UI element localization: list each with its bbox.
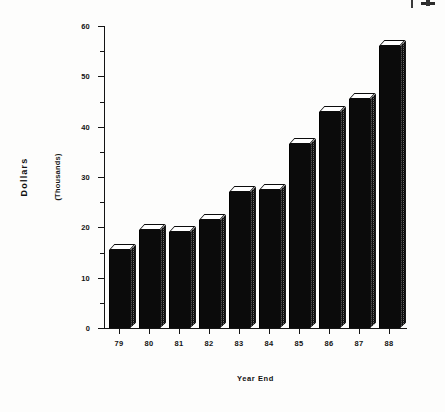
- x-tick-label: 86: [325, 339, 334, 348]
- bar-side-face: [250, 187, 256, 328]
- bar-front-face: [379, 46, 400, 328]
- x-tick: [209, 329, 210, 334]
- y-tick-major: 30: [98, 177, 104, 178]
- x-tick: [149, 329, 150, 334]
- bar-top-face: [319, 106, 345, 112]
- x-axis-title: Year End: [104, 374, 407, 383]
- bar-front-face: [199, 220, 220, 328]
- y-tick-minor: [100, 303, 104, 304]
- bar-top-face: [139, 224, 165, 230]
- x-tick-label: 85: [295, 339, 304, 348]
- x-tick: [329, 329, 330, 334]
- bar: [319, 112, 340, 328]
- x-tick-label: 79: [115, 339, 124, 348]
- bar-front-face: [139, 230, 160, 328]
- x-tick-label: 83: [235, 339, 244, 348]
- x-tick: [179, 329, 180, 334]
- plot-area: 0102030405060: [104, 26, 404, 328]
- bar-top-face: [259, 184, 285, 190]
- bar: [379, 46, 400, 328]
- y-tick-label: 40: [81, 122, 90, 131]
- x-tick-label: 80: [145, 339, 154, 348]
- x-axis-ticks: 79808182838485868788: [104, 329, 407, 359]
- y-tick-label: 0: [86, 324, 90, 333]
- x-tick-label: 88: [385, 339, 394, 348]
- y-tick-minor: [100, 202, 104, 203]
- bar-front-face: [229, 192, 250, 328]
- x-tick: [119, 329, 120, 334]
- bar: [289, 144, 310, 328]
- x-tick-label: 82: [205, 339, 214, 348]
- y-tick-major: 40: [98, 127, 104, 128]
- x-tick: [359, 329, 360, 334]
- bar-chart-figure: Dollars (Thousands) 0102030405060 798081…: [0, 0, 445, 412]
- x-tick: [299, 329, 300, 334]
- bar-side-face: [130, 245, 136, 328]
- bar-side-face: [190, 227, 196, 328]
- bar: [259, 190, 280, 328]
- y-tick-label: 50: [81, 72, 90, 81]
- bar-side-face: [400, 41, 406, 328]
- x-tick-label: 81: [175, 339, 184, 348]
- y-tick-minor: [100, 152, 104, 153]
- bar-top-face: [199, 214, 225, 220]
- bar: [229, 192, 250, 328]
- y-tick-minor: [100, 102, 104, 103]
- y-tick-label: 10: [81, 273, 90, 282]
- scan-artifact-mark-c: [426, 0, 430, 6]
- bar-side-face: [340, 106, 346, 328]
- y-tick-major: 20: [98, 227, 104, 228]
- x-tick: [389, 329, 390, 334]
- y-tick-label: 20: [81, 223, 90, 232]
- bar-side-face: [280, 184, 286, 328]
- bar-side-face: [160, 224, 166, 328]
- y-tick-label: 30: [81, 173, 90, 182]
- bar: [139, 230, 160, 328]
- bar-front-face: [349, 99, 370, 328]
- bar: [199, 220, 220, 328]
- y-axis-title: Dollars: [19, 158, 29, 197]
- x-tick: [269, 329, 270, 334]
- x-tick: [239, 329, 240, 334]
- bar-front-face: [319, 112, 340, 328]
- y-tick-minor: [100, 51, 104, 52]
- bar-front-face: [259, 190, 280, 328]
- bar: [109, 250, 130, 328]
- scan-artifact-mark-a: [411, 0, 413, 8]
- bar-front-face: [169, 232, 190, 328]
- bar-side-face: [310, 139, 316, 328]
- x-tick-label: 87: [355, 339, 364, 348]
- y-tick-major: 50: [98, 76, 104, 77]
- scan-artifact: [407, 0, 437, 10]
- y-axis-units-label: (Thousands): [53, 153, 62, 200]
- x-tick-label: 84: [265, 339, 274, 348]
- bar-front-face: [289, 144, 310, 328]
- y-tick-major: 60: [98, 26, 104, 27]
- y-tick-label: 60: [81, 22, 90, 31]
- bar: [169, 232, 190, 328]
- y-tick-minor: [100, 253, 104, 254]
- bar-front-face: [109, 250, 130, 328]
- bar: [349, 99, 370, 328]
- bar-side-face: [370, 94, 376, 328]
- bar-side-face: [220, 214, 226, 328]
- y-tick-major: 10: [98, 278, 104, 279]
